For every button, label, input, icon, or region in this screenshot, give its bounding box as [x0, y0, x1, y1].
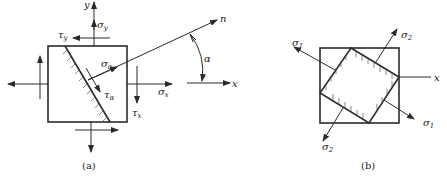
angle-alpha-label: α [204, 53, 211, 64]
principal-hatching [326, 51, 392, 119]
sigma-x-label: σx [158, 86, 169, 99]
sigma1-top-label: σ1 [292, 37, 303, 50]
sigma1-top-arrow [294, 47, 335, 70]
figure-a: y σy τy σα τα σx τx n α x (a) [8, 0, 238, 171]
caption-b: (b) [361, 160, 375, 171]
figure-b: σ1 σ2 x σ1 σ2 (b) [292, 29, 440, 171]
sigma2-bottom-arrow [323, 108, 343, 141]
element-square-b [320, 48, 399, 123]
tau-alpha-label: τα [104, 89, 115, 102]
y-axis-label: y [83, 0, 90, 10]
x-axis-label: x [232, 78, 238, 89]
normal-n-label: n [220, 13, 226, 24]
sigma-y-label: σy [97, 19, 109, 32]
tau-x-label: τx [132, 107, 142, 120]
sigma-alpha-label: σα [101, 58, 113, 71]
caption-a: (a) [82, 160, 96, 171]
sigma2-top-label: σ2 [401, 29, 413, 42]
x-axis-label-b: x [434, 72, 440, 83]
tau-y-label: τy [58, 29, 69, 42]
sigma2-top-arrow [376, 29, 397, 62]
angle-alpha-arc [190, 34, 203, 81]
stress-diagram: y σy τy σα τα σx τx n α x (a) [0, 0, 447, 176]
sigma2-bottom-label: σ2 [322, 141, 334, 154]
sigma1-bottom-label: σ1 [423, 117, 434, 130]
principal-element [320, 48, 399, 123]
